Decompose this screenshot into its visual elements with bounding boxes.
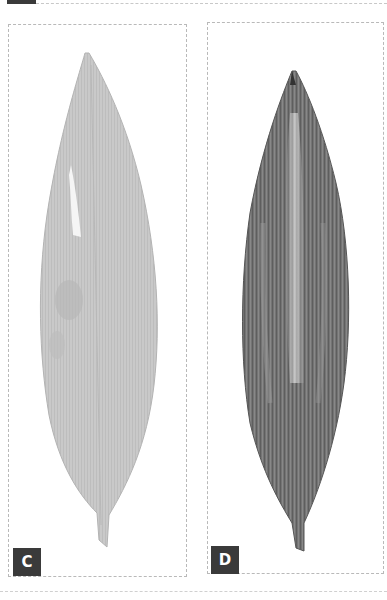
- top-divider: [36, 3, 387, 4]
- panel-label-d: D: [211, 546, 239, 574]
- panel-label-c: C: [13, 548, 41, 576]
- bottom-divider: [0, 591, 387, 592]
- panel-d: [207, 22, 384, 574]
- top-section-tab: [7, 0, 36, 4]
- panel-c: [8, 24, 187, 577]
- leaf-c-illustration: [9, 25, 186, 576]
- leaf-d-illustration: [208, 23, 383, 573]
